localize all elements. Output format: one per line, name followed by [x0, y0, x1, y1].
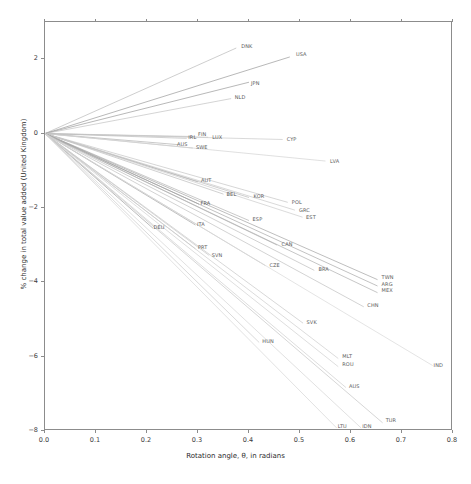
y-tick-label: 2 — [16, 54, 38, 62]
x-tick-label: 0.1 — [90, 436, 100, 444]
label-jpn: JPN — [251, 81, 260, 86]
x-tickmark-top — [299, 19, 300, 22]
x-tickmark-top — [197, 19, 198, 22]
figure: DNKUSAJPNNLDCYPLUXFINIRLAUSSWELVAAUTBELK… — [0, 0, 471, 484]
label-est: EST — [306, 215, 316, 220]
y-tickmark — [41, 207, 44, 208]
x-tickmark-top — [146, 19, 147, 22]
y-tick-label: −6 — [16, 352, 38, 360]
x-tick-label: 0.8 — [447, 436, 457, 444]
y-tick-label: −8 — [16, 426, 38, 434]
label-rou: ROU — [342, 362, 353, 367]
label-pol: POL — [292, 200, 302, 205]
ray-rou — [45, 134, 338, 367]
x-tick-label: 0.4 — [243, 436, 253, 444]
label-ita: ITA — [197, 222, 205, 227]
x-tick-label: 0.5 — [294, 436, 304, 444]
ray-aus2 — [45, 134, 346, 388]
label-aut: AUT — [201, 178, 211, 183]
x-tickmark-top — [248, 19, 249, 22]
ray-bra — [45, 134, 314, 271]
ray-hun — [45, 134, 259, 343]
x-tickmark-top — [95, 19, 96, 22]
plot-area: DNKUSAJPNNLDCYPLUXFINIRLAUSSWELVAAUTBELK… — [44, 21, 452, 430]
label-fin: FIN — [198, 132, 206, 137]
ray-lines — [45, 22, 453, 431]
y-tickmark — [41, 58, 44, 59]
label-hun: HUN — [262, 339, 273, 344]
label-aus: AUS — [177, 142, 188, 147]
x-tickmark — [95, 430, 96, 433]
label-ltu: LTU — [338, 424, 347, 429]
label-idn: IDN — [362, 424, 371, 429]
label-prt: PRT — [198, 245, 207, 250]
label-kor: KOR — [254, 194, 265, 199]
ray-ltu — [45, 134, 337, 428]
label-bra: BRA — [318, 267, 328, 272]
x-tickmark — [299, 430, 300, 433]
x-tick-label: 0.6 — [345, 436, 355, 444]
x-axis-label: Rotation angle, θ, in radians — [0, 452, 471, 460]
x-tickmark-top — [350, 19, 351, 22]
label-svk: SVK — [307, 320, 317, 325]
ray-jpn — [45, 82, 249, 133]
ray-usa — [45, 57, 290, 134]
x-tickmark — [248, 430, 249, 433]
x-tick-label: 0.0 — [39, 436, 49, 444]
y-tickmark — [41, 281, 44, 282]
y-tickmark — [41, 133, 44, 134]
y-tickmark — [41, 430, 44, 431]
label-dnk: DNK — [241, 44, 252, 49]
label-usa: USA — [296, 52, 307, 57]
label-deu: DEU — [154, 225, 165, 230]
ray-dnk — [45, 48, 236, 134]
label-grc: GRC — [299, 208, 310, 213]
label-mex: MEX — [382, 288, 393, 293]
x-tickmark — [146, 430, 147, 433]
ray-tur — [45, 134, 383, 423]
ray-mlt — [45, 134, 338, 359]
label-lux: LUX — [212, 135, 222, 140]
label-twn: TWN — [382, 275, 394, 280]
label-fra: FRA — [201, 201, 211, 206]
label-swe: SWE — [196, 145, 208, 150]
label-nld: NLD — [235, 95, 246, 100]
x-tick-label: 0.7 — [396, 436, 406, 444]
label-aus: AUS — [349, 384, 360, 389]
label-irl: IRL — [188, 135, 196, 140]
ray-esp — [45, 134, 249, 221]
label-lva: LVA — [330, 159, 339, 164]
x-tick-label: 0.2 — [141, 436, 151, 444]
label-bel: BEL — [227, 192, 237, 197]
label-arg: ARG — [382, 282, 393, 287]
label-mlt: MLT — [342, 354, 352, 359]
label-chn: CHN — [367, 303, 378, 308]
label-ind: IND — [434, 363, 443, 368]
x-tickmark — [350, 430, 351, 433]
x-tickmark — [197, 430, 198, 433]
label-can: CAN — [282, 242, 293, 247]
x-tickmark-top — [401, 19, 402, 22]
x-tickmark-top — [452, 19, 453, 22]
ray-ind — [45, 134, 433, 366]
ray-nld — [45, 99, 231, 134]
label-esp: ESP — [253, 217, 263, 222]
label-svn: SVN — [212, 253, 223, 258]
label-cyp: CYP — [287, 137, 297, 142]
ray-arg — [45, 134, 378, 286]
x-tickmark — [44, 430, 45, 433]
ray-svk — [45, 134, 303, 324]
y-axis-label: % change in total value added (United Ki… — [20, 84, 28, 324]
y-tickmark — [41, 356, 44, 357]
x-tickmark-top — [44, 19, 45, 22]
ray-twn — [45, 134, 378, 280]
x-tickmark — [452, 430, 453, 433]
label-cze: CZE — [269, 263, 279, 268]
x-tickmark — [401, 430, 402, 433]
x-tick-label: 0.3 — [192, 436, 202, 444]
label-tur: TUR — [386, 418, 397, 423]
